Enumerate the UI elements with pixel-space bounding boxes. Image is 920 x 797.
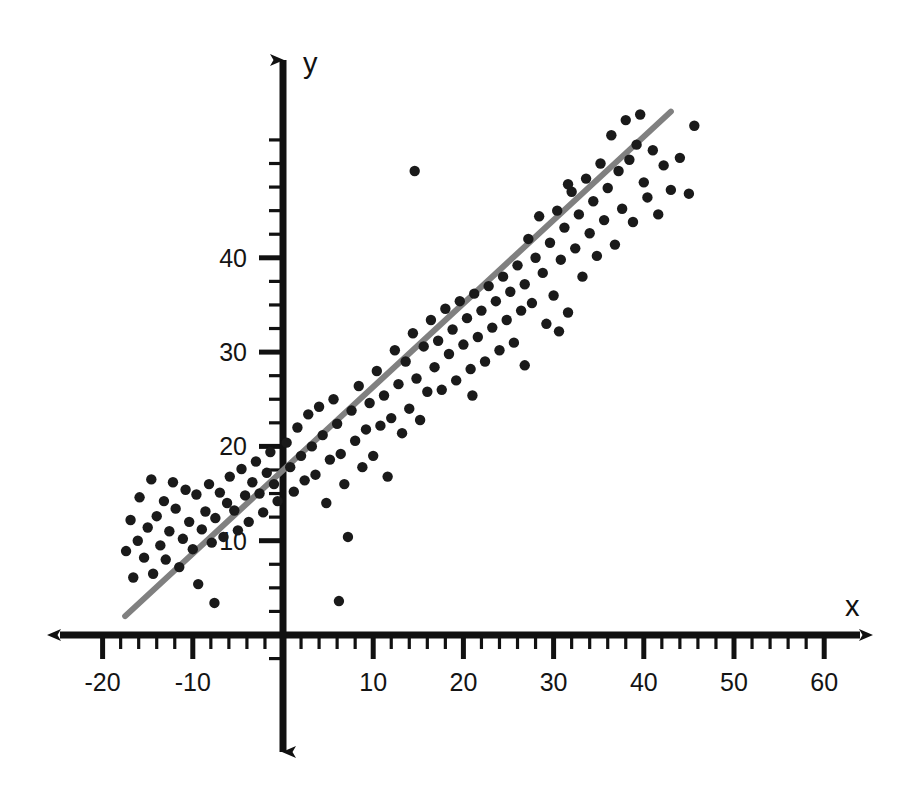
data-point [415, 415, 425, 425]
data-point [444, 349, 454, 359]
data-point [624, 155, 634, 165]
data-point [272, 496, 282, 506]
data-point [128, 572, 138, 582]
data-point [372, 366, 382, 376]
data-point [409, 166, 419, 176]
data-point [563, 307, 573, 317]
x-tick-label: 60 [810, 668, 838, 696]
data-point [143, 522, 153, 532]
data-point [595, 158, 605, 168]
data-point [240, 490, 250, 500]
data-point [574, 209, 584, 219]
data-point [197, 524, 207, 534]
data-point [541, 319, 551, 329]
data-point [155, 540, 165, 550]
data-point [225, 471, 235, 481]
x-axis-tick-labels: -20-10102030405060 [85, 668, 839, 696]
data-point [648, 145, 658, 155]
data-point [447, 324, 457, 334]
x-tick-label: -10 [175, 668, 211, 696]
y-axis-label: y [303, 47, 318, 79]
data-point [393, 379, 403, 389]
data-point [339, 479, 349, 489]
data-point [505, 287, 515, 297]
data-point [658, 160, 668, 170]
data-point [346, 405, 356, 415]
x-tick-label: 40 [630, 668, 658, 696]
data-point [603, 183, 613, 193]
data-point [613, 166, 623, 176]
data-point [218, 532, 228, 542]
data-point [332, 419, 342, 429]
data-point [146, 474, 156, 484]
data-point [285, 462, 295, 472]
data-point [419, 341, 429, 351]
data-point [258, 507, 268, 517]
data-point [314, 402, 324, 412]
data-point [469, 288, 479, 298]
plot-canvas: -20-10102030405060 10203040 x y [0, 0, 920, 797]
data-point [642, 192, 652, 202]
data-point [635, 109, 645, 119]
data-point [429, 362, 439, 372]
data-point [310, 469, 320, 479]
data-point [209, 598, 219, 608]
data-point [254, 488, 264, 498]
data-point [581, 173, 591, 183]
data-point [584, 228, 594, 238]
data-point [491, 296, 501, 306]
data-point [592, 251, 602, 261]
data-point [639, 177, 649, 187]
data-point [125, 515, 135, 525]
data-point [689, 121, 699, 131]
data-point [328, 394, 338, 404]
data-point [467, 390, 477, 400]
x-tick-label: -20 [85, 668, 121, 696]
data-point [527, 298, 537, 308]
data-point [281, 437, 291, 447]
data-point [433, 336, 443, 346]
data-point [628, 217, 638, 227]
data-point [296, 451, 306, 461]
data-point [121, 546, 131, 556]
data-point [588, 196, 598, 206]
data-point [325, 454, 335, 464]
data-point [361, 424, 371, 434]
x-tick-label: 10 [359, 668, 387, 696]
scatter-plot-figure: -20-10102030405060 10203040 x y [0, 0, 920, 797]
data-point [317, 430, 327, 440]
data-point [170, 503, 180, 513]
data-point [480, 356, 490, 366]
data-point [411, 373, 421, 383]
data-point [178, 534, 188, 544]
data-point [606, 130, 616, 140]
data-point [375, 420, 385, 430]
data-point [193, 579, 203, 589]
data-point [610, 239, 620, 249]
data-point [404, 403, 414, 413]
data-point [357, 462, 367, 472]
data-point [400, 356, 410, 366]
data-point [545, 238, 555, 248]
data-point [408, 328, 418, 338]
data-point [364, 398, 374, 408]
data-point [494, 345, 504, 355]
data-point [247, 477, 257, 487]
x-tick-label: 50 [720, 668, 748, 696]
data-point [516, 305, 526, 315]
data-point [188, 544, 198, 554]
data-point [548, 290, 558, 300]
data-point [368, 451, 378, 461]
data-point [397, 428, 407, 438]
data-point [386, 413, 396, 423]
data-point [350, 436, 360, 446]
data-point [498, 271, 508, 281]
data-point [523, 234, 533, 244]
data-point [458, 339, 468, 349]
y-axis-minor-ticks [269, 140, 280, 659]
data-point [289, 486, 299, 496]
data-point [215, 487, 225, 497]
data-point [512, 260, 522, 270]
data-point [501, 315, 511, 325]
data-point [134, 492, 144, 502]
